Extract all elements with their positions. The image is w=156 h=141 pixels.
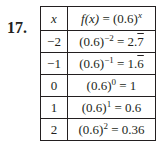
cell-base: (0.6) [79, 34, 104, 49]
problem-number: 17. [7, 19, 27, 37]
header-x-label: x [51, 11, 57, 26]
cell-eq: = 1 [116, 78, 136, 93]
cell-base: (0.6) [78, 122, 103, 137]
cell-eq: = 0.6 [111, 100, 141, 115]
cell-base: (0.6) [87, 78, 112, 93]
cell-eq: = 2. [114, 34, 138, 49]
cell-exp: −1 [104, 55, 114, 65]
table-row: 0 (0.6)0 = 1 [41, 75, 156, 97]
cell-repeating-digit: 7 [137, 34, 144, 49]
table-row: 1 (0.6)1 = 0.6 [41, 97, 156, 119]
cell-fx: (0.6)0 = 1 [68, 75, 156, 97]
table-row: 2 (0.6)2 = 0.36 [41, 119, 156, 141]
cell-repeating-digit: 6 [137, 56, 144, 71]
cell-eq: = 0.36 [108, 122, 145, 137]
cell-fx: (0.6)2 = 0.36 [68, 119, 156, 141]
cell-exp: −2 [104, 33, 114, 43]
cell-fx: (0.6)−2 = 2.7 [68, 31, 156, 53]
cell-eq: = 1. [114, 56, 138, 71]
cell-base: (0.6) [79, 56, 104, 71]
header-fx-eq: = (0.6) [99, 11, 138, 26]
cell-x: −2 [41, 31, 68, 53]
cell-base: (0.6) [82, 100, 107, 115]
header-fx-label: f(x) [81, 11, 99, 26]
cell-fx: (0.6)1 = 0.6 [68, 97, 156, 119]
table-row: −2 (0.6)−2 = 2.7 [41, 31, 156, 53]
header-x: x [41, 7, 68, 31]
cell-x: −1 [41, 53, 68, 75]
cell-x: 0 [41, 75, 68, 97]
header-fx-exp: x [138, 10, 142, 20]
table-header-row: x f(x) = (0.6)x [41, 7, 156, 31]
cell-fx: (0.6)−1 = 1.6 [68, 53, 156, 75]
cell-x: 1 [41, 97, 68, 119]
header-fx: f(x) = (0.6)x [68, 7, 156, 31]
cell-x: 2 [41, 119, 68, 141]
function-value-table: x f(x) = (0.6)x −2 (0.6)−2 = 2.7 −1 (0.6… [40, 6, 156, 141]
table-row: −1 (0.6)−1 = 1.6 [41, 53, 156, 75]
